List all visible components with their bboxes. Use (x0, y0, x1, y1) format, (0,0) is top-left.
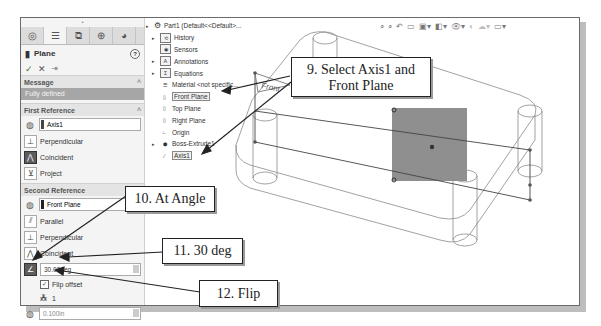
graphics-viewport[interactable]: Front (0, 0, 601, 326)
callout-step-9-line2: Front Plane (292, 78, 430, 94)
selected-plane-preview (392, 108, 467, 181)
callout-step-12: 12. Flip (199, 280, 278, 307)
callout-step-9-line1: 9. Select Axis1 and (292, 62, 430, 78)
callout-step-9: 9. Select Axis1 and Front Plane (291, 57, 431, 97)
callout-step-10: 10. At Angle (125, 186, 215, 212)
callout-step-11: 11. 30 deg (162, 238, 243, 264)
